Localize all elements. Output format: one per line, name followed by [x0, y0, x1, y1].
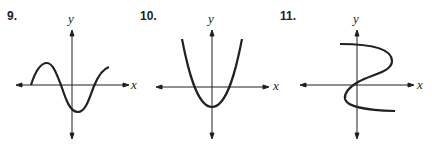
exercise-9: 9. y x: [0, 0, 140, 149]
arrow-right-icon: [408, 83, 414, 87]
arrow-right-icon: [263, 85, 269, 89]
arrow-down-icon: [355, 133, 359, 139]
arrow-up-icon: [210, 30, 214, 36]
arrow-left-icon: [300, 83, 306, 87]
graph-10: [140, 0, 285, 149]
curve: [31, 63, 109, 112]
arrow-up-icon: [70, 30, 74, 36]
arrow-left-icon: [156, 85, 162, 89]
exercise-10: 10. y x: [140, 0, 285, 149]
curve: [340, 44, 395, 111]
arrow-down-icon: [70, 133, 74, 139]
arrow-down-icon: [210, 133, 214, 139]
arrow-left-icon: [16, 83, 22, 87]
arrow-right-icon: [123, 83, 129, 87]
exercise-11: 11. y x: [280, 0, 432, 149]
arrow-up-icon: [355, 30, 359, 36]
graph-9: [0, 0, 140, 149]
graph-11: [280, 0, 432, 149]
